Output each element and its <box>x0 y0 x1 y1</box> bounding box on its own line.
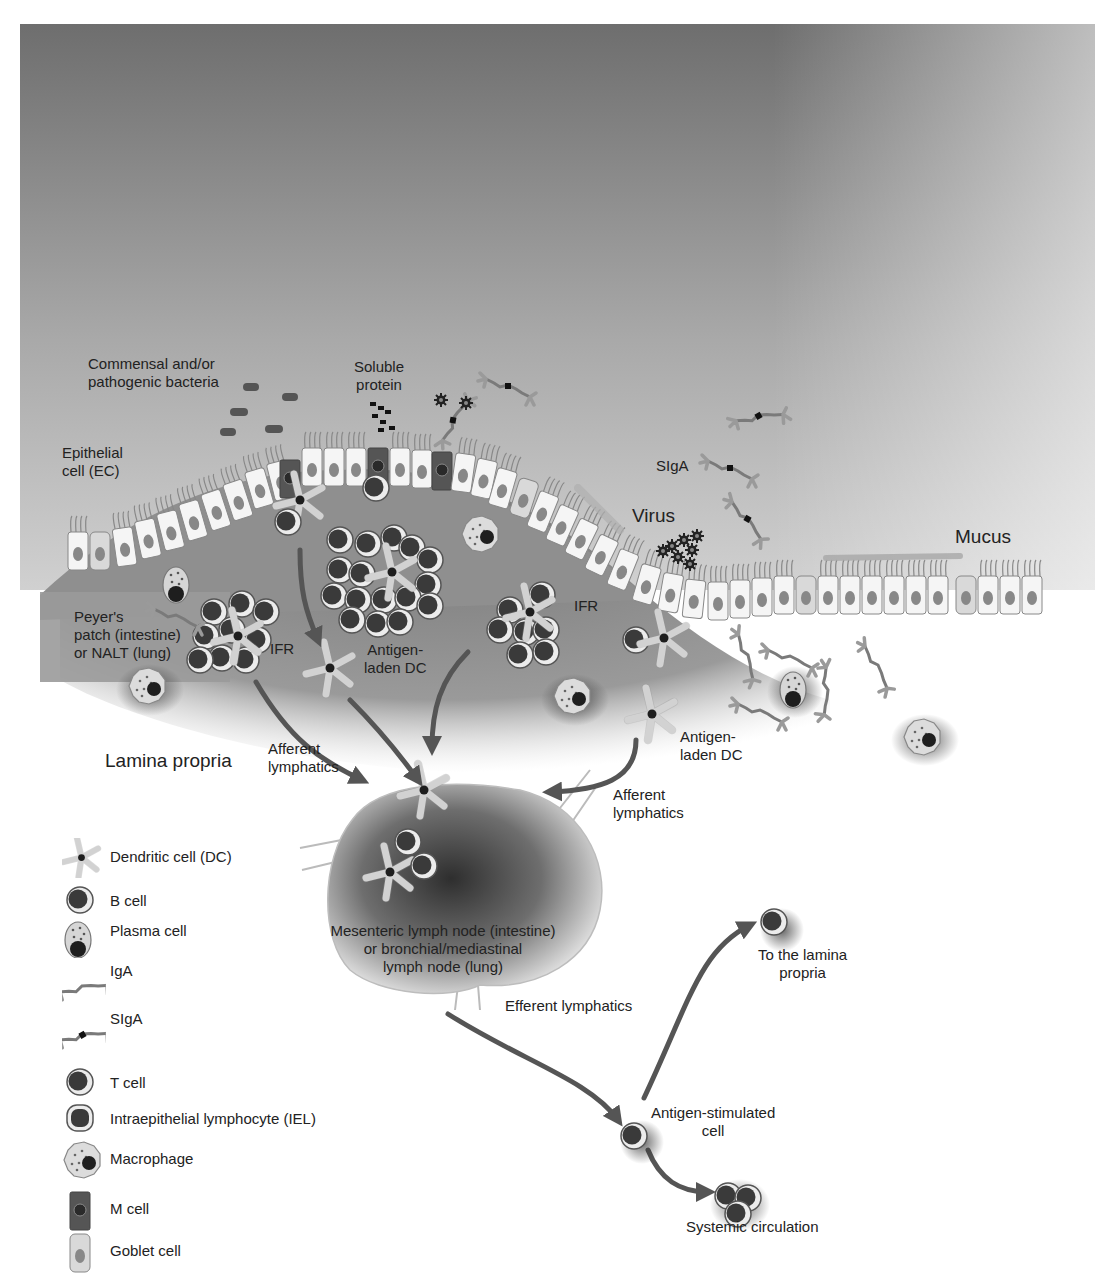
plasma-cell-icon <box>62 918 106 958</box>
legend-item: M cell <box>62 1190 392 1226</box>
label-lamina-propria: Lamina propria <box>105 750 232 772</box>
label-antigen-laden-dc-right: Antigen-laden DC <box>680 728 743 764</box>
label-antigen-laden-dc-center: Antigen-laden DC <box>364 641 427 677</box>
label-systemic: Systemic circulation <box>686 1218 819 1236</box>
t-cell-icon <box>62 1064 106 1100</box>
label-mucus: Mucus <box>955 526 1011 548</box>
label-virus: Virus <box>632 505 675 527</box>
label-antigen-stimulated: Antigen-stimulatedcell <box>651 1104 775 1140</box>
legend-item: SIgA <box>62 1010 392 1046</box>
legend-item: T cell <box>62 1064 392 1100</box>
mucosal-immunity-diagram: Commensal and/orpathogenic bacteria Solu… <box>0 0 1095 1280</box>
legend-item: IgA <box>62 962 392 998</box>
legend-item: Dendritic cell (DC) <box>62 838 392 874</box>
legend-item: Plasma cell <box>62 918 392 954</box>
b-cell-icon <box>62 882 106 918</box>
siga-icon <box>62 1010 106 1054</box>
label-soluble-protein: Solubleprotein <box>354 358 404 394</box>
dendritic-cell-icon <box>62 838 106 878</box>
label-epithelial-cell: Epithelialcell (EC) <box>62 444 123 480</box>
legend-item: Intraepithelial lymphocyte (IEL) <box>62 1100 392 1136</box>
label-efferent: Efferent lymphatics <box>505 997 632 1015</box>
label-bacteria: Commensal and/orpathogenic bacteria <box>88 355 219 391</box>
label-afferent-right: Afferentlymphatics <box>613 786 684 822</box>
label-siga: SIgA <box>656 457 689 475</box>
label-peyers-patch: Peyer'spatch (intestine)or NALT (lung) <box>74 608 181 662</box>
goblet-cell-icon <box>62 1232 106 1276</box>
iel-icon <box>62 1100 106 1136</box>
macrophage-icon <box>62 1140 106 1184</box>
label-afferent-left: Afferentlymphatics <box>268 740 339 776</box>
m-cell-icon <box>62 1190 106 1234</box>
legend-item: B cell <box>62 882 392 918</box>
iga-icon <box>62 962 106 1006</box>
label-to-lamina-propria: To the laminapropria <box>758 946 847 982</box>
legend-item: Goblet cell <box>62 1232 392 1268</box>
label-ifr-right: IFR <box>574 597 598 615</box>
label-ifr-left: IFR <box>270 640 294 658</box>
legend-item: Macrophage <box>62 1140 392 1176</box>
mucus-layer <box>826 556 960 558</box>
